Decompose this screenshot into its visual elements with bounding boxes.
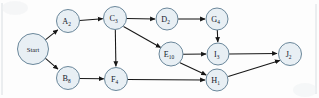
node-j[interactable]: J2 (279, 43, 302, 66)
edge-start-b (45, 58, 58, 69)
node-h[interactable]: H1 (206, 69, 228, 91)
edge-i-j (229, 53, 277, 54)
edge-e-h (180, 63, 206, 75)
edge-a-c (80, 19, 103, 21)
edge-c-f (115, 30, 116, 67)
node-i[interactable]: I3 (207, 43, 229, 65)
node-g[interactable]: G4 (206, 8, 228, 30)
node-start-label: Start (27, 46, 40, 53)
edge-h-j (228, 60, 280, 76)
node-group: Start A2 B8 C3 D2 G4 (18, 7, 302, 92)
edge-c-d (127, 18, 156, 19)
node-a[interactable]: A2 (57, 10, 80, 33)
edge-start-a (45, 30, 58, 40)
edge-g-i (217, 30, 218, 42)
activity-network-diagram: Start A2 B8 C3 D2 G4 (0, 0, 319, 98)
edge-c-e (124, 27, 161, 48)
node-e[interactable]: E10 (159, 42, 183, 66)
node-d[interactable]: D2 (156, 8, 178, 30)
node-start[interactable]: Start (18, 34, 49, 65)
edge-f-h (128, 79, 206, 80)
diagram-canvas: Start A2 B8 C3 D2 G4 (0, 0, 319, 98)
node-f[interactable]: F4 (105, 68, 128, 91)
node-c[interactable]: C3 (104, 7, 127, 30)
node-b[interactable]: B8 (57, 67, 80, 90)
